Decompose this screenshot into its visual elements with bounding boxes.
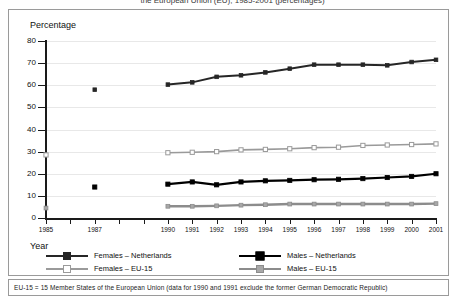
y-tick: [38, 63, 45, 64]
y-tick-label: 80: [18, 36, 36, 45]
gridline: [46, 63, 436, 64]
y-tick: [38, 174, 45, 175]
x-tick-label: 1994: [252, 226, 278, 233]
x-tick-label: 1992: [204, 226, 230, 233]
y-tick: [38, 196, 45, 197]
y-tick: [38, 107, 45, 108]
x-tick-label: 1993: [228, 226, 254, 233]
legend-item[interactable]: Females – Netherlands: [46, 250, 172, 261]
y-tick-label: 20: [18, 169, 36, 178]
y-tick-label: 60: [18, 80, 36, 89]
chart-legend: Females – NetherlandsFemales – EU-15 Mal…: [46, 250, 446, 274]
y-axis-line: [45, 40, 47, 219]
legend-swatch-icon: [239, 251, 281, 260]
x-tick-label: 1991: [179, 226, 205, 233]
y-axis-title: Percentage: [30, 20, 76, 30]
gridline: [46, 41, 436, 42]
x-tick-label: 1997: [326, 226, 352, 233]
legend-column-left: Females – NetherlandsFemales – EU-15: [46, 250, 172, 276]
legend-item[interactable]: Males – Netherlands: [239, 250, 356, 261]
x-tick-label: 1995: [277, 226, 303, 233]
chart-figure: the European Union (EU), 1985-2001 (perc…: [0, 0, 465, 301]
y-tick: [38, 41, 45, 42]
legend-item-label: Females – EU-15: [94, 264, 152, 273]
legend-swatch-icon: [239, 264, 281, 273]
gridline: [46, 174, 436, 175]
chart-panel: [8, 9, 449, 276]
legend-item-label: Females – Netherlands: [94, 251, 172, 260]
x-tick-label: 2001: [423, 226, 449, 233]
legend-swatch-icon: [46, 251, 88, 260]
y-tick: [38, 218, 45, 219]
x-tick-label: 1996: [301, 226, 327, 233]
legend-column-right: Males – NetherlandsMales – EU-15: [239, 250, 356, 276]
gridline: [46, 107, 436, 108]
y-tick-label: 0: [18, 213, 36, 222]
gridline: [46, 130, 436, 131]
x-tick-label: 1985: [33, 226, 59, 233]
x-tick-label: 1987: [82, 226, 108, 233]
figure-title: the European Union (EU), 1985-2001 (perc…: [0, 0, 465, 6]
gridline: [46, 152, 436, 153]
y-tick-label: 40: [18, 125, 36, 134]
x-tick-label: 1998: [350, 226, 376, 233]
gridline: [46, 196, 436, 197]
legend-swatch-icon: [46, 264, 88, 273]
gridline: [46, 85, 436, 86]
y-tick-label: 10: [18, 191, 36, 200]
y-tick: [38, 130, 45, 131]
x-tick-label: 2000: [399, 226, 425, 233]
y-tick: [38, 152, 45, 153]
x-tick-label: 1999: [374, 226, 400, 233]
footnote-text: EU-15 = 15 Member States of the European…: [9, 284, 388, 291]
legend-item-label: Males – Netherlands: [287, 251, 356, 260]
footnote-box: EU-15 = 15 Member States of the European…: [8, 279, 449, 296]
y-tick: [38, 85, 45, 86]
legend-item-label: Males – EU-15: [287, 264, 337, 273]
x-axis-line: [45, 218, 437, 220]
y-tick-label: 50: [18, 102, 36, 111]
y-tick-label: 70: [18, 58, 36, 67]
x-tick-label: 1990: [155, 226, 181, 233]
y-tick-label: 30: [18, 147, 36, 156]
legend-item[interactable]: Males – EU-15: [239, 263, 356, 274]
legend-item[interactable]: Females – EU-15: [46, 263, 172, 274]
